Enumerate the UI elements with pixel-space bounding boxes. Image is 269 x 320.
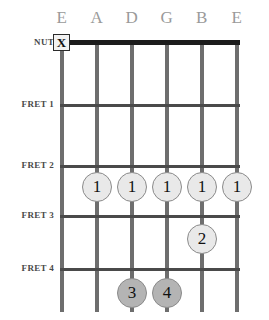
- finger-dot-1-d: 1: [117, 172, 147, 202]
- finger-dot-2-b: 2: [187, 224, 217, 254]
- string-label-4: G: [155, 8, 179, 28]
- nut-label: NUT: [6, 37, 54, 47]
- string-label-2: A: [85, 8, 109, 28]
- fret-label-1: FRET 1: [6, 99, 54, 109]
- string-label-6: E: [225, 8, 249, 28]
- fret-label-4: FRET 4: [6, 263, 54, 273]
- finger-dot-1-b: 1: [187, 172, 217, 202]
- string-label-5: B: [190, 8, 214, 28]
- finger-dot-3-d: 3: [117, 278, 147, 308]
- fret-line-1: [60, 104, 240, 107]
- string-label-1: E: [50, 8, 74, 28]
- fret-label-3: FRET 3: [6, 210, 54, 220]
- finger-dot-1-high-e: 1: [222, 172, 252, 202]
- finger-dot-1-g: 1: [152, 172, 182, 202]
- finger-dot-1-a: 1: [82, 172, 112, 202]
- nut-line: [60, 40, 240, 45]
- fret-line-2: [60, 165, 240, 168]
- string-low-e: [60, 40, 64, 312]
- fret-line-4: [60, 268, 240, 271]
- string-label-3: D: [120, 8, 144, 28]
- fret-label-2: FRET 2: [6, 160, 54, 170]
- fret-line-3: [60, 215, 240, 218]
- mute-marker-low-e: X: [53, 34, 70, 51]
- finger-dot-4-g: 4: [152, 278, 182, 308]
- guitar-chord-diagram: E A D G B E NUT FRET 1 FRET 2 FRET 3 FRE…: [0, 0, 269, 320]
